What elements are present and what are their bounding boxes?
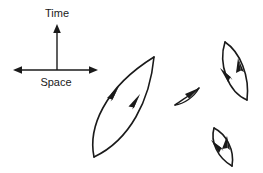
loop-right-lower-left-arrow-icon: [211, 140, 222, 153]
time-axis: [53, 24, 61, 70]
loop-large-tilted-lens: [93, 57, 154, 157]
space-axis: [13, 66, 98, 74]
space-axis-left-arrow-icon: [13, 66, 22, 74]
loop-right-upper-lens: [220, 42, 248, 100]
time-axis-label: Time: [45, 7, 69, 19]
time-axis-arrow-icon: [53, 24, 61, 33]
loop-large-left-curve: [93, 57, 154, 157]
loop-right-upper-right-curve: [225, 42, 248, 100]
spacetime-loop-diagram: Time Space: [0, 0, 263, 173]
loop-right-lower-lens: [211, 128, 233, 166]
space-axis-right-arrow-icon: [89, 66, 98, 74]
space-axis-label: Space: [40, 76, 71, 88]
loop-right-upper-left-arrow-icon: [220, 68, 231, 82]
axis-group: Time Space: [13, 7, 98, 88]
loop-small-middle-lens: [175, 88, 199, 105]
